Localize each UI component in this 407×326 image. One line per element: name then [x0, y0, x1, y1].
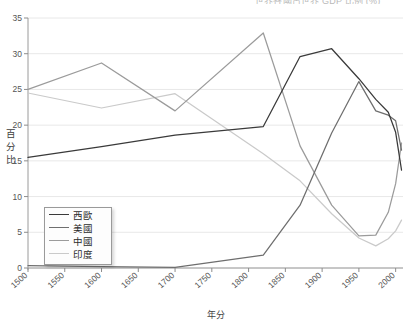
y-tick-label: 35: [13, 13, 23, 23]
legend-swatch-2: [49, 240, 69, 241]
x-tick-label: 1500: [9, 270, 30, 290]
y-tick-label: 20: [13, 120, 23, 130]
legend-item-3[interactable]: 印度: [49, 247, 111, 260]
legend-swatch-3: [49, 253, 69, 254]
legend-item-1[interactable]: 美國: [49, 221, 111, 234]
chart-legend: 西歐 美國 中國 印度: [44, 207, 112, 265]
y-tick-label: 30: [13, 49, 23, 59]
legend-label-0: 西歐: [73, 208, 94, 222]
chart-container: 世界各國占世界 GDP 比例 (%) 百 分 比 051015202530351…: [0, 0, 407, 326]
legend-label-1: 美國: [73, 221, 94, 235]
legend-swatch-0: [49, 214, 69, 215]
x-axis-title: 年分: [207, 309, 225, 320]
plot-area: 0510152025303515001550160016501700175018…: [0, 0, 407, 326]
x-tick-label: 1950: [339, 270, 360, 290]
y-tick-label: 5: [17, 227, 22, 237]
legend-label-2: 中國: [73, 234, 94, 248]
x-tick-label: 1650: [119, 270, 140, 290]
x-tick-label: 1550: [45, 270, 66, 290]
legend-item-2[interactable]: 中國: [49, 234, 111, 247]
x-tick-label: 1800: [229, 270, 250, 290]
y-tick-label: 15: [13, 156, 23, 166]
legend-item-0[interactable]: 西歐: [49, 208, 111, 221]
legend-swatch-1: [49, 227, 69, 228]
x-tick-label: 1850: [266, 270, 287, 290]
x-tick-label: 1750: [192, 270, 213, 290]
series-line-西歐: [28, 49, 402, 170]
x-tick-label: 1700: [156, 270, 177, 290]
x-tick-label: 2000: [376, 270, 397, 290]
y-tick-label: 25: [13, 84, 23, 94]
y-tick-label: 10: [13, 192, 23, 202]
x-tick-label: 1600: [82, 270, 103, 290]
x-tick-label: 1900: [303, 270, 324, 290]
legend-label-3: 印度: [73, 247, 94, 261]
